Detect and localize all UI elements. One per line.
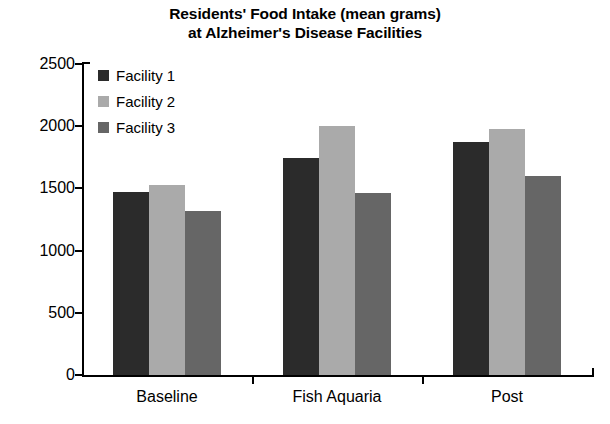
legend-item: Facility 3 <box>98 114 175 140</box>
x-axis-line <box>82 375 594 377</box>
y-axis-tick-label: 500 <box>13 305 75 321</box>
x-axis-tick <box>252 375 254 384</box>
x-axis-category-label: Post <box>422 388 592 406</box>
chart-legend: Facility 1Facility 2Facility 3 <box>98 62 175 140</box>
chart-title-line-2: at Alzheimer's Disease Facilities <box>0 23 610 42</box>
bar <box>355 193 391 375</box>
y-axis-tick-label: 1000 <box>13 243 75 259</box>
y-axis-tick-label-wrap: 1500 <box>0 180 75 196</box>
legend-item-label: Facility 3 <box>116 120 175 135</box>
y-axis-tick-label-wrap: 1000 <box>0 243 75 259</box>
x-axis-right-cap <box>592 368 594 377</box>
bar <box>319 126 355 375</box>
legend-swatch-icon <box>98 96 109 107</box>
bar <box>149 185 185 375</box>
legend-item-label: Facility 1 <box>116 68 175 83</box>
chart-title-line-1: Residents' Food Intake (mean grams) <box>0 4 610 23</box>
y-axis-tick-label-wrap: 2500 <box>0 56 75 72</box>
y-axis-tick-label-wrap: 0 <box>0 367 75 383</box>
bar <box>525 176 561 375</box>
y-axis-tick-label-wrap: 500 <box>0 305 75 321</box>
x-axis-category-label: Baseline <box>82 388 252 406</box>
x-axis-tick <box>422 375 424 384</box>
legend-swatch-icon <box>98 70 109 81</box>
legend-item-label: Facility 2 <box>116 94 175 109</box>
y-axis-tick-label: 2000 <box>13 118 75 134</box>
x-axis-category-label: Fish Aquaria <box>252 388 422 406</box>
chart-title: Residents' Food Intake (mean grams) at A… <box>0 4 610 42</box>
y-axis-tick-label-wrap: 2000 <box>0 118 75 134</box>
legend-item: Facility 1 <box>98 62 175 88</box>
bar <box>185 211 221 375</box>
y-axis-tick-label: 0 <box>13 367 75 383</box>
legend-swatch-icon <box>98 122 109 133</box>
bar <box>489 129 525 375</box>
bar <box>453 142 489 375</box>
y-axis-tick-label: 2500 <box>13 56 75 72</box>
y-axis-tick-label: 1500 <box>13 180 75 196</box>
bar <box>113 192 149 375</box>
legend-item: Facility 2 <box>98 88 175 114</box>
bar-chart: Residents' Food Intake (mean grams) at A… <box>0 0 610 424</box>
bar <box>283 158 319 375</box>
